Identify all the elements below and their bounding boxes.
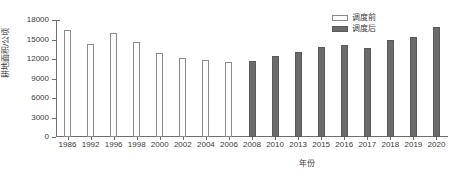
legend-label-before: 调度前 xyxy=(352,14,376,22)
bar xyxy=(64,30,71,137)
y-tick-label: 18000 xyxy=(27,16,49,24)
x-tick-label: 2016 xyxy=(335,141,353,149)
y-tick: 18000 xyxy=(52,20,56,21)
x-tick-label: 2004 xyxy=(197,141,215,149)
y-tick: 12000 xyxy=(52,59,56,60)
y-axis-title: 耕地面积/公顷 xyxy=(2,28,10,78)
legend-swatch-before-icon xyxy=(332,15,348,21)
bar xyxy=(272,56,279,137)
y-tick: 3000 xyxy=(52,118,56,119)
y-tick: 9000 xyxy=(52,79,56,80)
y-tick-label: 9000 xyxy=(31,75,49,83)
x-tick-label: 1992 xyxy=(82,141,100,149)
bar xyxy=(202,60,209,137)
y-tick: 0 xyxy=(52,137,56,138)
y-tick: 15000 xyxy=(52,40,56,41)
y-axis-line xyxy=(56,20,57,137)
x-tick-label: 2002 xyxy=(174,141,192,149)
chart-legend: 调度前 调度后 xyxy=(332,14,376,33)
x-tick-label: 2013 xyxy=(289,141,307,149)
bar xyxy=(249,61,256,137)
legend-label-after: 调度后 xyxy=(352,25,376,33)
x-tick-label: 2010 xyxy=(266,141,284,149)
bar xyxy=(225,62,232,137)
legend-swatch-after-icon xyxy=(332,26,348,32)
x-tick-label: 2015 xyxy=(312,141,330,149)
x-tick-label: 1998 xyxy=(128,141,146,149)
legend-item-after[interactable]: 调度后 xyxy=(332,25,376,33)
x-tick-label: 1996 xyxy=(105,141,123,149)
x-tick-label: 2019 xyxy=(405,141,423,149)
y-tick-label: 12000 xyxy=(27,55,49,63)
x-tick-label: 2018 xyxy=(381,141,399,149)
x-axis-title-text: 年份 xyxy=(299,159,315,168)
bar xyxy=(295,52,302,137)
x-tick-label: 2020 xyxy=(428,141,446,149)
y-tick-label: 0 xyxy=(45,133,49,141)
x-tick-label: 2006 xyxy=(220,141,238,149)
bar xyxy=(133,42,140,137)
y-tick-label: 3000 xyxy=(31,114,49,122)
plot-area: 0300060009000120001500018000 19861992199… xyxy=(56,20,448,137)
x-tick-label: 2000 xyxy=(151,141,169,149)
x-tick-label: 1986 xyxy=(59,141,77,149)
y-tick-label: 15000 xyxy=(27,36,49,44)
bar xyxy=(433,27,440,137)
bar xyxy=(110,33,117,137)
bar xyxy=(318,47,325,137)
y-axis-top-cap xyxy=(56,20,60,21)
bar xyxy=(87,44,94,137)
legend-item-before[interactable]: 调度前 xyxy=(332,14,376,22)
x-axis-title: 年份 xyxy=(0,160,463,168)
x-tick-label: 2008 xyxy=(243,141,261,149)
bar xyxy=(364,48,371,137)
bar xyxy=(410,37,417,137)
y-tick: 6000 xyxy=(52,98,56,99)
y-tick-label: 6000 xyxy=(31,94,49,102)
bar xyxy=(387,40,394,138)
x-tick-label: 2017 xyxy=(358,141,376,149)
chart-figure: 耕地面积/公顷 0300060009000120001500018000 198… xyxy=(0,0,463,176)
bar xyxy=(341,45,348,137)
bar xyxy=(156,53,163,138)
bar xyxy=(179,58,186,137)
